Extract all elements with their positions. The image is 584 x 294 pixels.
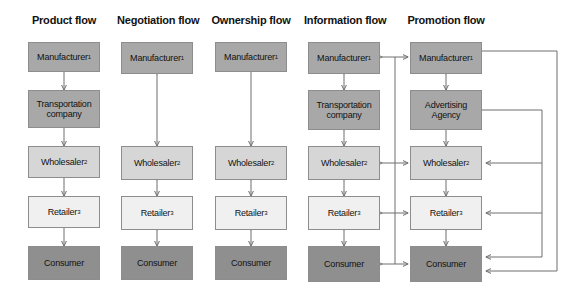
node-label: Retailer: [235, 208, 264, 218]
node-promotion-retailer: Retailer3: [410, 196, 482, 230]
node-label: Consumer: [426, 259, 466, 269]
node-label: Retailer: [48, 207, 77, 217]
node-ownership-wholesaler: Wholesaler2: [215, 146, 287, 180]
node-information-retailer: Retailer3: [308, 196, 380, 230]
node-label: Wholesaler: [321, 158, 364, 168]
node-ownership-retailer: Retailer3: [215, 196, 287, 230]
node-label: Consumer: [44, 258, 84, 268]
node-label: Manufacturer: [317, 53, 368, 63]
node-product-transportation: Transportation company: [28, 90, 100, 128]
node-negotiation-consumer: Consumer: [121, 246, 193, 280]
column-title-product-flow: Product flow: [28, 14, 100, 26]
node-promotion-advertising-agency: Advertising Agency: [410, 90, 482, 130]
node-label: Wholesaler: [41, 157, 84, 167]
node-label: Retailer: [430, 208, 459, 218]
node-information-consumer: Consumer: [308, 246, 380, 282]
node-label: Retailer: [328, 208, 357, 218]
node-ownership-consumer: Consumer: [215, 246, 287, 280]
node-product-consumer: Consumer: [28, 246, 100, 280]
node-label: Wholesaler: [423, 158, 466, 168]
node-information-wholesaler: Wholesaler2: [308, 146, 380, 180]
node-label: Wholesaler: [228, 158, 271, 168]
node-product-retailer: Retailer3: [28, 196, 100, 228]
node-negotiation-manufacturer: Manufacturer1: [121, 42, 193, 74]
node-product-wholesaler: Wholesaler2: [28, 146, 100, 178]
node-label: Manufacturer: [224, 52, 275, 62]
node-label: Consumer: [231, 258, 271, 268]
node-promotion-manufacturer: Manufacturer1: [410, 42, 482, 74]
column-title-negotiation-flow: Negotiation flow: [117, 14, 197, 26]
node-label: Transportation company: [317, 100, 372, 120]
node-label: Consumer: [137, 258, 177, 268]
node-information-manufacturer: Manufacturer1: [308, 42, 380, 74]
node-label: Manufacturer: [37, 52, 88, 62]
node-label: Consumer: [324, 259, 364, 269]
node-label: Retailer: [141, 208, 170, 218]
node-promotion-consumer: Consumer: [410, 246, 482, 282]
column-title-promotion-flow: Promotion flow: [406, 14, 486, 26]
node-ownership-manufacturer: Manufacturer1: [215, 42, 287, 72]
node-promotion-wholesaler: Wholesaler2: [410, 146, 482, 180]
node-product-manufacturer: Manufacturer1: [28, 42, 100, 72]
node-negotiation-wholesaler: Wholesaler2: [121, 146, 193, 180]
node-label: Advertising Agency: [425, 100, 467, 120]
node-label: Manufacturer: [130, 53, 181, 63]
column-title-information-flow: Information flow: [304, 14, 384, 26]
column-title-ownership-flow: Ownership flow: [211, 14, 291, 26]
node-label: Transportation company: [37, 99, 92, 119]
node-negotiation-retailer: Retailer3: [121, 196, 193, 230]
node-label: Wholesaler: [134, 158, 177, 168]
channel-flow-diagram: Product flow Negotiation flow Ownership …: [0, 0, 584, 294]
node-information-transportation: Transportation company: [308, 90, 380, 130]
node-label: Manufacturer: [419, 53, 470, 63]
